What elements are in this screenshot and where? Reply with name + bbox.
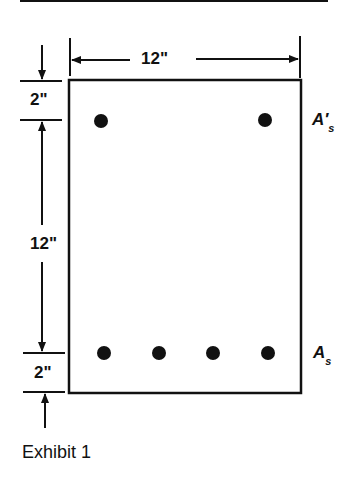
bottom-bar-1 (97, 346, 111, 360)
compression-steel-label: A′s (312, 111, 334, 131)
width-dimension-label: 12" (137, 50, 172, 67)
bottom-bar-2 (152, 346, 166, 360)
top-cover-label: 2" (30, 91, 48, 108)
top-bar-2 (258, 113, 272, 127)
bottom-cover-label: 2" (34, 364, 52, 381)
depth-dimension-label: 12" (30, 235, 57, 252)
top-bar-1 (94, 114, 108, 128)
bottom-bar-4 (261, 346, 275, 360)
tension-steel-label: As (313, 344, 331, 364)
exhibit-caption: Exhibit 1 (22, 442, 91, 463)
bottom-bar-3 (206, 346, 220, 360)
